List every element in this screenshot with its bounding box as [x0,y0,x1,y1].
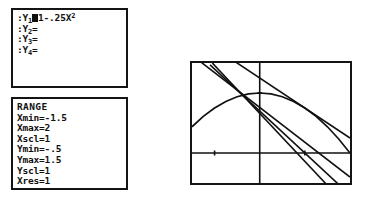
xres-label: Xres [17,175,39,186]
xmin-value: -1.5 [45,112,67,123]
ymax-label: Ymax [17,154,39,165]
ymin-label: Ymin [17,143,39,154]
y-editor-row-y4[interactable]: :Y4= [17,45,126,56]
yscl-label: Yscl [17,165,39,176]
series-secant-1 [192,63,350,177]
graph-plot-area [192,63,350,183]
range-lines: RANGE Xmin=-1.5 Xmax=2 Xscl=1 Ymin=-.5 Y… [13,99,126,187]
ymin-value: -.5 [45,143,62,154]
y4-index: 4 [28,49,32,57]
y-editor-lines: :Y11-.25X2 :Y2= :Y3= :Y4= [13,10,126,55]
y1-exponent: 2 [71,12,75,20]
xres-value: 1 [45,175,51,186]
y-equation-editor-screen[interactable]: :Y11-.25X2 :Y2= :Y3= :Y4= [11,8,128,88]
ymax-value: 1.5 [45,154,62,165]
range-settings-screen[interactable]: RANGE Xmin=-1.5 Xmax=2 Xscl=1 Ymin=-.5 Y… [11,97,128,190]
y4-equal: = [32,44,38,55]
xscl-value: 1 [45,133,51,144]
y3-equal: = [32,33,38,44]
xmax-label: Xmax [17,122,39,133]
xmin-label: Xmin [17,112,39,123]
y4-prefix: :Y [17,44,28,55]
graph-display-screen[interactable] [190,61,352,185]
y2-index: 2 [28,28,32,36]
y2-prefix: :Y [17,23,28,34]
yscl-value: 1 [45,165,51,176]
y2-equal: = [32,23,38,34]
y3-prefix: :Y [17,33,28,44]
y1-prefix: :Y [17,12,28,23]
xscl-label: Xscl [17,133,39,144]
y1-expression: 1-.25X [38,12,71,23]
xmax-value: 2 [45,122,51,133]
y1-index: 1 [28,17,32,25]
range-row-xres[interactable]: Xres=1 [17,176,126,187]
y3-index: 3 [28,38,32,46]
